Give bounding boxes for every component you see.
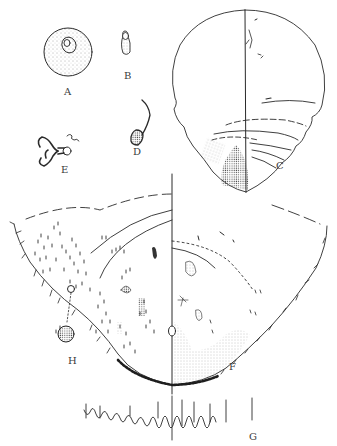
line-drawing xyxy=(0,0,337,446)
figure-d-mouthparts-drawing xyxy=(131,100,150,145)
figure-f-h-posterior-drawing xyxy=(10,174,327,394)
figure-label-e: E xyxy=(61,165,68,175)
figure-c-adult-female-drawing xyxy=(172,10,324,192)
dorsal-setae xyxy=(35,222,154,353)
figure-g-setae-row-drawing xyxy=(84,396,252,440)
figure-e-spiracle-drawing xyxy=(38,135,79,167)
figure-b-drawing xyxy=(122,31,131,54)
illustration-plate: A B C D E F H G xyxy=(0,0,337,446)
figure-label-a: A xyxy=(64,87,71,97)
figure-label-g: G xyxy=(249,432,257,442)
figure-label-c: C xyxy=(276,161,284,171)
figure-a-egg-drawing xyxy=(44,28,92,76)
figure-label-b: B xyxy=(124,71,131,81)
figure-label-h: H xyxy=(68,356,77,366)
figure-label-d: D xyxy=(133,147,141,157)
figure-label-f: F xyxy=(229,362,236,372)
